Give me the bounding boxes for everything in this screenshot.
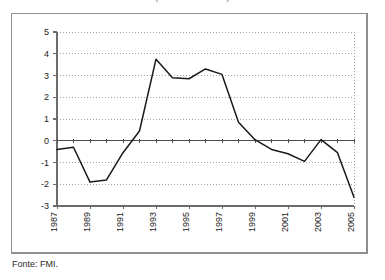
y-axis-group bbox=[53, 32, 57, 206]
y-tick-label: 3 bbox=[44, 71, 49, 81]
data-series-group bbox=[57, 59, 354, 197]
zero-line-group bbox=[57, 139, 354, 143]
x-axis-group bbox=[57, 206, 354, 209]
x-tick-labels-group: 1987198919911993199519971999200120032005 bbox=[49, 212, 356, 232]
chart-title-clipped: (........................) bbox=[0, 0, 385, 5]
x-tick-label: 2003 bbox=[313, 212, 323, 232]
y-tick-label: 4 bbox=[44, 49, 49, 59]
x-tick-label: 1993 bbox=[148, 212, 158, 232]
y-tick-label: -3 bbox=[41, 201, 49, 211]
x-tick-label: 1999 bbox=[247, 212, 257, 232]
x-tick-label: 2005 bbox=[346, 212, 356, 232]
figure-container: (........................) 543210-1-2-3 … bbox=[0, 0, 385, 280]
y-tick-label: -2 bbox=[41, 179, 49, 189]
x-tick-label: 1991 bbox=[115, 212, 125, 232]
x-tick-label: 1995 bbox=[181, 212, 191, 232]
x-tick-label: 1987 bbox=[49, 212, 59, 232]
y-tick-label: 5 bbox=[44, 27, 49, 37]
plot-area-wrapper: 543210-1-2-3 198719891991199319951997199… bbox=[11, 13, 368, 254]
source-note: Fonte: FMI. bbox=[12, 259, 58, 269]
y-tick-label: 0 bbox=[44, 136, 49, 146]
x-tick-label: 1989 bbox=[82, 212, 92, 232]
x-tick-label: 1997 bbox=[214, 212, 224, 232]
line-chart: 543210-1-2-3 198719891991199319951997199… bbox=[11, 13, 368, 254]
series-line bbox=[57, 59, 354, 197]
y-tick-label: -1 bbox=[41, 158, 49, 168]
x-tick-label: 2001 bbox=[280, 212, 290, 232]
y-tick-label: 2 bbox=[44, 92, 49, 102]
y-tick-label: 1 bbox=[44, 114, 49, 124]
y-tick-labels-group: 543210-1-2-3 bbox=[41, 27, 49, 211]
